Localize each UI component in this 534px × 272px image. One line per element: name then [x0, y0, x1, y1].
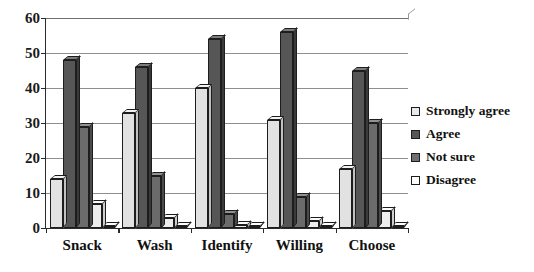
x-tick-mark-2: [191, 228, 192, 233]
x-tick-label-willing: Willing: [263, 238, 335, 253]
legend-swatch-agree-icon: [411, 130, 420, 139]
bar-group-willing: [267, 18, 332, 228]
bar-side-face: [280, 114, 284, 228]
bar-front-face: [174, 226, 187, 228]
x-tick-mark-0: [46, 228, 47, 233]
bar-group-wash: [122, 18, 187, 228]
bar[interactable]: [122, 113, 135, 229]
bar-chart: 60 50 40 30 20 10 0 SnackWashIdentifyWil…: [0, 0, 534, 272]
legend-swatch-not-sure-icon: [411, 153, 420, 162]
legend-label-not-sure: Not sure: [426, 150, 475, 164]
bar-front-face: [195, 88, 208, 228]
bar-group-choose: [339, 18, 404, 228]
bar-side-face: [306, 191, 310, 228]
x-axis-line: [45, 228, 409, 229]
legend-label-strongly-agree: Strongly agree: [426, 104, 510, 118]
bar-side-face: [161, 170, 165, 228]
x-tick-label-identify: Identify: [191, 238, 263, 253]
bar-side-face: [135, 107, 139, 228]
x-tick-label-snack: Snack: [46, 238, 118, 253]
y-tick-label-40: 40: [6, 81, 40, 96]
legend-item-strongly-agree[interactable]: Strongly agree: [411, 101, 531, 121]
bar[interactable]: [267, 120, 280, 229]
x-tick-mark-3: [263, 228, 264, 233]
bar-front-face: [339, 169, 352, 229]
y-tick-label-60: 60: [6, 11, 40, 26]
bar-side-face: [352, 163, 356, 228]
x-tick-label-wash: Wash: [118, 238, 190, 253]
y-tick-label-0: 0: [6, 221, 40, 236]
bar-group-identify: [195, 18, 260, 228]
bar[interactable]: [50, 179, 63, 228]
legend-label-agree: Agree: [426, 127, 460, 141]
plot-area: [46, 18, 408, 228]
bar-side-face: [63, 174, 67, 228]
bar[interactable]: [319, 226, 332, 228]
bar-side-face: [365, 65, 369, 228]
bar-side-face: [89, 121, 93, 228]
bar-side-face: [378, 118, 382, 228]
bar-front-face: [122, 113, 135, 229]
bar-front-face: [319, 226, 332, 228]
plot-frame-3d-edge: [408, 8, 415, 20]
bar-side-face: [208, 83, 212, 228]
legend-swatch-disagree-icon: [411, 176, 420, 185]
bar-side-face: [148, 62, 152, 228]
x-tick-mark-1: [118, 228, 119, 233]
bar[interactable]: [195, 88, 208, 228]
bar[interactable]: [391, 226, 404, 228]
legend-item-disagree[interactable]: Disagree: [411, 170, 531, 190]
bar-side-face: [293, 27, 297, 228]
bar-side-face: [76, 55, 80, 228]
legend-label-disagree: Disagree: [426, 173, 476, 187]
legend-item-agree[interactable]: Agree: [411, 124, 531, 144]
bar[interactable]: [339, 169, 352, 229]
legend-swatch-strongly-agree-icon: [411, 107, 420, 116]
bar-group-snack: [50, 18, 115, 228]
legend-item-not-sure[interactable]: Not sure: [411, 147, 531, 167]
x-tick-mark-end: [408, 228, 409, 233]
bar-front-face: [50, 179, 63, 228]
bar[interactable]: [102, 226, 115, 228]
chart-legend: Strongly agree Agree Not sure Disagree: [411, 101, 531, 193]
bar-front-face: [267, 120, 280, 229]
y-tick-label-30: 30: [6, 116, 40, 131]
x-tick-mark-4: [336, 228, 337, 233]
bar-front-face: [391, 226, 404, 228]
bar-side-face: [221, 34, 225, 228]
y-tick-label-20: 20: [6, 151, 40, 166]
y-tick-label-50: 50: [6, 46, 40, 61]
bar[interactable]: [174, 226, 187, 228]
x-tick-label-choose: Choose: [336, 238, 408, 253]
y-axis-tick-labels: 60 50 40 30 20 10 0: [0, 0, 40, 272]
y-tick-label-10: 10: [6, 186, 40, 201]
